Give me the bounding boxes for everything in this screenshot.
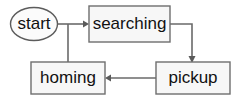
state-diagram: start searching homing pickup (0, 0, 243, 99)
diagram-canvas: start searching homing pickup (0, 0, 243, 99)
node-homing-label: homing (40, 68, 96, 87)
arrowhead-start-to-searching (83, 21, 89, 28)
node-homing[interactable]: homing (31, 62, 105, 94)
node-pickup[interactable]: pickup (156, 62, 230, 94)
node-pickup-label: pickup (168, 68, 217, 87)
node-start[interactable]: start (11, 8, 58, 41)
node-searching-label: searching (93, 14, 167, 33)
edge-searching-to-pickup (170, 24, 192, 59)
arrowhead-pickup-to-homing (105, 75, 111, 82)
node-start-label: start (17, 14, 50, 33)
node-searching[interactable]: searching (89, 6, 170, 42)
